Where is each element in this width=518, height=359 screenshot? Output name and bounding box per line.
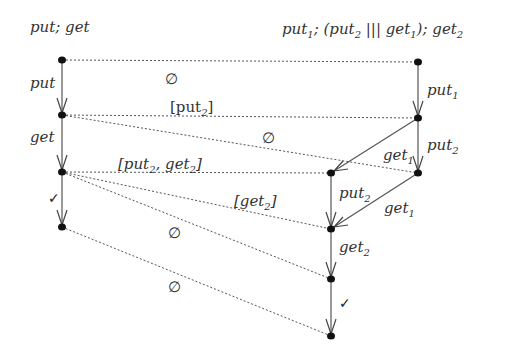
edge-label-get2: get2: [339, 238, 370, 258]
edge-label-put: put: [30, 74, 56, 92]
relation-label-get2: [get2]: [234, 192, 277, 212]
relation-label-empty-1: ∅: [165, 70, 178, 88]
relation-label-put2-get2: [put2, get2]: [118, 155, 202, 175]
bisimulation-diagram: put; get put1; (put2 ||| get1); get2 ∅ […: [0, 0, 518, 359]
state-node-L2: [58, 169, 66, 176]
checkmark-icon: ✓: [48, 190, 60, 206]
state-node-M1: [327, 226, 335, 233]
state-node-R1: [414, 115, 422, 122]
relation-label-empty-4: ∅: [168, 278, 181, 296]
left-process-title: put; get: [30, 18, 91, 36]
relation-L1-R2: [62, 115, 418, 173]
state-node-L1: [58, 112, 66, 119]
relation-label-put2: [put2]: [170, 98, 213, 118]
state-node-L0: [58, 57, 66, 64]
edge-label-put2: put2: [427, 136, 459, 156]
checkmark-icon: ✓: [339, 295, 351, 311]
relation-L1-R1: [62, 115, 418, 118]
state-node-M2: [327, 276, 335, 283]
state-node-M0: [327, 170, 335, 177]
state-node-R2: [414, 170, 422, 177]
edge-label-put2-middle: put2: [339, 184, 371, 204]
edge-label-get: get: [30, 128, 55, 146]
relation-L0-R0: [62, 60, 418, 62]
edge-label-get1-upper: get1: [383, 146, 414, 166]
relation-L3-M3: [62, 227, 331, 336]
relation-L2-M1: [62, 172, 331, 229]
relation-labels: ∅ [put2] ∅ [put2, get2] [get2] ∅ ∅: [118, 70, 277, 296]
state-node-L3: [58, 224, 66, 231]
state-node-R0: [414, 59, 422, 66]
relation-label-empty-2: ∅: [262, 129, 275, 147]
edge-label-get1-lower: get1: [384, 199, 415, 219]
state-node-M3: [327, 333, 335, 340]
right-process-title: put1; (put2 ||| get1); get2: [282, 20, 463, 40]
relation-label-empty-3: ∅: [168, 224, 181, 242]
relation-L2-M2: [62, 172, 331, 279]
edge-label-put1: put1: [427, 81, 459, 101]
